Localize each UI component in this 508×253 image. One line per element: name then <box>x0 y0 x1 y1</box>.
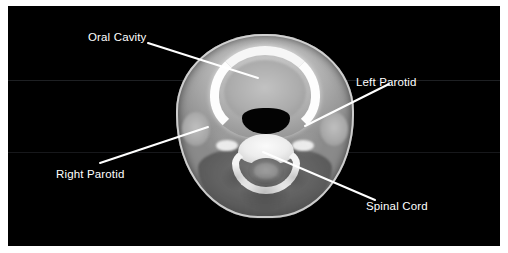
annotation-label-oral-cavity: Oral Cavity <box>88 31 147 43</box>
annotated-ct-figure: Oral Cavity Left Parotid Right Parotid S… <box>0 0 508 253</box>
annotation-label-left-parotid: Left Parotid <box>356 76 417 88</box>
annotation-label-right-parotid: Right Parotid <box>56 168 124 180</box>
ct-axial-head-slice <box>176 34 354 218</box>
skin-surface-rim <box>176 34 354 218</box>
ct-scan-viewport: Oral Cavity Left Parotid Right Parotid S… <box>8 6 500 246</box>
annotation-label-spinal-cord: Spinal Cord <box>366 200 428 212</box>
